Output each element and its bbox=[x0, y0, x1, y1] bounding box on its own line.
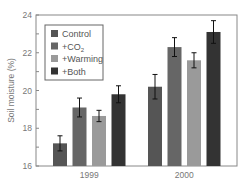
x-tick-label: 2000 bbox=[175, 170, 194, 180]
y-tick-label: 20 bbox=[23, 86, 33, 96]
bar bbox=[207, 32, 221, 166]
legend-swatch bbox=[51, 30, 58, 37]
y-tick-label: 16 bbox=[23, 161, 33, 171]
y-tick-label: 24 bbox=[23, 10, 33, 20]
y-tick-label: 18 bbox=[23, 123, 33, 133]
legend-swatch bbox=[51, 43, 58, 50]
bar bbox=[92, 116, 106, 166]
bar bbox=[187, 60, 201, 166]
legend-swatch bbox=[51, 55, 58, 62]
bar bbox=[112, 94, 126, 166]
legend-label: +Both bbox=[62, 67, 86, 77]
x-tick-label: 1999 bbox=[80, 170, 99, 180]
legend-label: +Warming bbox=[62, 54, 103, 64]
bar bbox=[168, 47, 182, 166]
y-tick-label: 22 bbox=[23, 48, 33, 58]
legend-swatch bbox=[51, 68, 58, 75]
y-axis-label: Soil moisture (%) bbox=[6, 58, 16, 123]
legend-label: Control bbox=[62, 29, 91, 39]
bar-chart: 1618202224Soil moisture (%)19992000Contr… bbox=[0, 0, 244, 184]
